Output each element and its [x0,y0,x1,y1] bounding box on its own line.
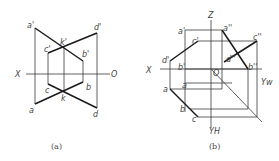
figure-a: X O a' d' k' c' b' c b k a d (a) [14,21,117,151]
caption-a: (a) [51,142,62,151]
line-ab-front [35,28,83,61]
label-d-prime: d' [162,56,169,65]
label-b-dprime: b'' [248,63,257,72]
label-a-prime: a' [27,21,34,30]
label-b: b [180,105,185,114]
label-c: c [192,115,197,124]
label-c: c [45,86,50,95]
label-b-prime: b' [178,63,185,72]
label-k: k [61,94,66,103]
figure-b: Z X O Yw YH a' a'' c' c'' d' d'' b' b'' … [145,11,273,151]
label-d: d [93,110,99,119]
label-a-top: a [182,81,187,90]
label-a: a [163,85,168,94]
z-axis-label: Z [207,11,214,20]
yw-label: Yw [261,78,273,87]
label-a-prime: a' [178,27,185,36]
label-k-prime: k' [60,38,67,47]
label-b-prime: b' [82,50,89,59]
label-d-dprime: d'' [226,55,235,64]
label-c-prime: c' [44,45,51,54]
o-label: O [213,69,219,78]
yh-label: YH [209,127,220,136]
o-label: O [111,70,117,79]
label-c-dprime: c'' [253,33,262,42]
line-cd-front [48,33,97,53]
label-a-dprime: a'' [223,24,232,33]
label-a: a [29,106,34,115]
projection-diagram: X O a' d' k' c' b' c b k a d (a) [0,0,279,161]
caption-b: (b) [209,142,220,151]
x-axis-label: X [145,66,152,75]
label-c-prime: c' [192,37,199,46]
label-d-prime: d' [94,23,101,32]
x-axis-label: X [14,70,21,79]
label-b: b [86,83,91,92]
line-ab-top [35,82,83,104]
